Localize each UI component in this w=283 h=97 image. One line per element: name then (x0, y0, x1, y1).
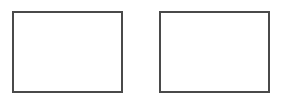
right-empty-box (159, 11, 270, 93)
right-box-label (161, 13, 268, 91)
left-box-label (14, 13, 121, 91)
left-empty-box (12, 11, 123, 93)
